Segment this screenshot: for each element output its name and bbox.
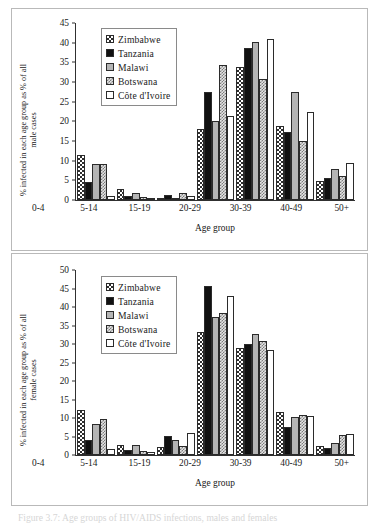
legend-label: Zimbabwe [118, 282, 161, 293]
bar [117, 445, 125, 455]
x-tick-male-20-29: 20-29 [165, 203, 216, 213]
legend-item: Zimbabwe [106, 32, 171, 46]
bar [164, 436, 172, 456]
legend-label: Côte d'Ivoire [118, 90, 171, 101]
bar [307, 112, 315, 200]
bar [339, 176, 347, 200]
y-tick-mark-female-40 [72, 307, 75, 308]
y-tick-mark-male-10 [72, 160, 75, 161]
bar [92, 424, 100, 455]
bar-group-female-20-29 [196, 270, 236, 455]
legend-label: Botswana [118, 76, 157, 87]
bar-group-male-30-39 [235, 23, 275, 200]
y-tick-mark-female-30 [72, 344, 75, 345]
x-axis-title-female: Age group [75, 478, 355, 488]
y-tick-mark-male-40 [72, 42, 75, 43]
bar [244, 344, 252, 456]
bar [100, 164, 108, 200]
x-tick-male-50+: 50+ [316, 203, 367, 213]
y-tick-mark-male-0 [72, 200, 75, 201]
x-tick-male-40-49: 40-49 [266, 203, 317, 213]
legend-label: Malawi [118, 62, 149, 73]
y-tick-mark-female-35 [72, 325, 75, 326]
bar-group-male-40-49 [275, 23, 315, 200]
bar [179, 193, 187, 200]
bar [212, 317, 220, 455]
bar [324, 178, 332, 200]
legend-female: ZimbabweTanzaniaMalawiBotswanaCôte d'Ivo… [101, 276, 177, 354]
bar-group-female-30-39 [235, 270, 275, 455]
legend-swatch-icon [106, 283, 114, 291]
x-axis-line-male [75, 200, 355, 201]
y-tick-mark-male-15 [72, 141, 75, 142]
bar [219, 313, 227, 455]
bar [132, 193, 140, 200]
bar [236, 67, 244, 200]
legend-swatch-icon [106, 63, 114, 71]
bar [147, 198, 155, 200]
bar [284, 132, 292, 200]
bar [204, 286, 212, 455]
x-tick-labels-female: 0-45-1415-1920-2930-3940-4950+ [13, 458, 367, 468]
legend-swatch-icon [106, 49, 114, 57]
bar [172, 198, 180, 200]
bar [204, 92, 212, 200]
bar [331, 169, 339, 200]
y-tick-mark-female-25 [72, 362, 75, 363]
legend-swatch-icon [106, 311, 114, 319]
bar-group-male-20-29 [196, 23, 236, 200]
bar [147, 452, 155, 455]
bar [252, 334, 260, 455]
chart-area-female: % infected in each age group as % of all… [12, 254, 367, 505]
bar [132, 445, 140, 455]
legend-item: Malawi [106, 308, 171, 322]
bar [212, 121, 220, 200]
bar-group-female-50+ [315, 270, 355, 455]
bar [316, 446, 324, 455]
legend-swatch-icon [106, 77, 114, 85]
legend-item: Tanzania [106, 46, 171, 60]
figure-caption: Figure 3.7: Age groups of HIV/AIDS infec… [18, 512, 368, 525]
bar [107, 196, 115, 200]
bar-group-female-40-49 [275, 270, 315, 455]
bar-group-male-50+ [315, 23, 355, 200]
bar [339, 435, 347, 455]
legend-label: Tanzania [118, 296, 154, 307]
legend-swatch-icon [106, 297, 114, 305]
bar [252, 42, 260, 200]
x-axis-line-female [75, 455, 355, 456]
bar [324, 448, 332, 455]
y-tick-mark-male-35 [72, 62, 75, 63]
y-tick-mark-female-5 [72, 436, 75, 437]
bar [276, 126, 284, 200]
bar [157, 198, 165, 200]
legend-item: Côte d'Ivoire [106, 336, 171, 350]
legend-item: Zimbabwe [106, 280, 171, 294]
legend-swatch-icon [106, 35, 114, 43]
chart-panel-female: % infected in each age group as % of all… [11, 253, 368, 506]
bar [307, 416, 315, 455]
legend-male: ZimbabweTanzaniaMalawiBotswanaCôte d'Ivo… [101, 28, 177, 106]
bar [100, 419, 108, 455]
x-axis-title-male: Age group [75, 223, 355, 233]
bar [140, 451, 148, 455]
bar [259, 341, 267, 455]
bar [85, 182, 93, 200]
legend-label: Malawi [118, 310, 149, 321]
bar [172, 440, 180, 455]
bar [236, 348, 244, 455]
bar [85, 440, 93, 455]
y-tick-mark-male-45 [72, 23, 75, 24]
chart-area-male: % infected in each age group as % of all… [12, 9, 367, 250]
y-axis-title-male-line2: male cases [29, 63, 39, 195]
bar [124, 196, 132, 200]
bar [140, 197, 148, 200]
bar [197, 129, 205, 200]
bar [107, 449, 115, 455]
y-tick-mark-female-50 [72, 270, 75, 271]
bar [117, 189, 125, 200]
bar [267, 39, 275, 200]
legend-swatch-icon [106, 339, 114, 347]
figure-root: % infected in each age group as % of all… [0, 0, 379, 525]
y-axis-title-female-line2: female cases [29, 313, 39, 445]
